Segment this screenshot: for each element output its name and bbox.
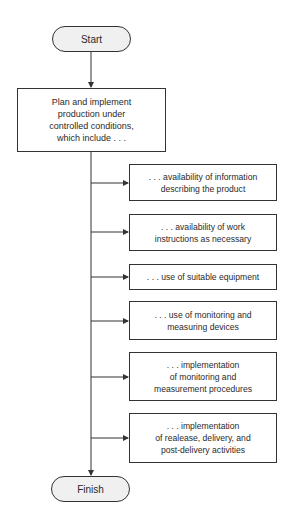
main-process-box: Plan and implement production under cont… [17,88,166,152]
item-box-monitoring-procedures: . . . implementation of monitoring and m… [129,352,277,401]
finish-terminal: Finish [51,476,130,502]
item-box-work-instructions: . . . availability of work instructions … [129,214,277,251]
item-box-information: . . . availability of information descri… [129,164,277,201]
start-terminal: Start [52,26,131,52]
item-box-monitoring-devices: . . . use of monitoring and measuring de… [129,301,277,340]
item-box-release-delivery: . . . implementation of realease, delive… [129,413,277,463]
item-box-equipment: . . . use of suitable equipment [129,264,277,290]
